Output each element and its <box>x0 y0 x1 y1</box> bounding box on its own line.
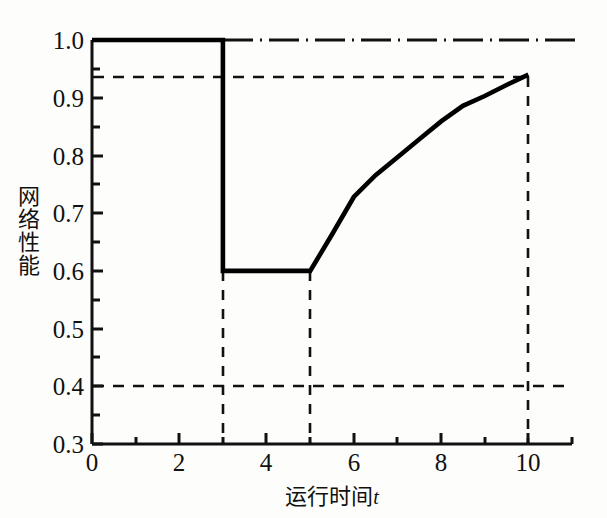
y-axis-title: 网 络 性 能 <box>16 186 42 278</box>
y-tick-label-0.8: 0.8 <box>20 144 84 169</box>
x-axis-title-text: 运行时间 <box>285 484 373 509</box>
reference-lines <box>93 77 572 443</box>
performance-curve <box>92 40 528 271</box>
y-tick-label-0.4: 0.4 <box>20 374 84 399</box>
x-tick-label-4: 4 <box>246 450 286 475</box>
chart-canvas <box>0 0 607 518</box>
network-performance-figure: 1.0 0.9 0.8 0.7 0.6 0.5 0.4 0.3 0 2 4 6 … <box>0 0 607 518</box>
x-tick-label-2: 2 <box>159 450 199 475</box>
x-tick-label-10: 10 <box>508 450 548 475</box>
y-tick-label-0.5: 0.5 <box>20 317 84 342</box>
y-tick-label-0.9: 0.9 <box>20 86 84 111</box>
x-axis-title-variable: t <box>373 486 379 508</box>
y-axis-title-char-1: 网 <box>16 186 42 209</box>
x-tick-label-8: 8 <box>421 450 461 475</box>
x-axis-title: 运行时间t <box>92 478 572 510</box>
x-tick-label-6: 6 <box>334 450 374 475</box>
y-axis-title-char-2: 络 <box>16 209 42 232</box>
y-tick-label-1.0: 1.0 <box>20 28 84 53</box>
axis-lines <box>92 40 572 444</box>
y-axis-title-char-3: 性 <box>16 232 42 255</box>
y-axis-title-char-4: 能 <box>16 255 42 278</box>
x-tick-label-0: 0 <box>72 450 112 475</box>
